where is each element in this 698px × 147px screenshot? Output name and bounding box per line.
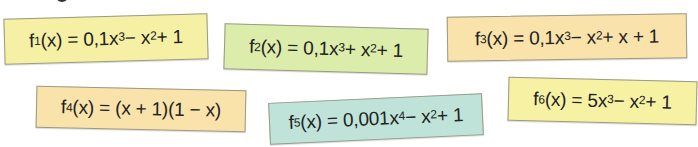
function-card-f1: f1(x) = 0,1x3 − x2 + 1 bbox=[3, 13, 208, 65]
equals-sign: = bbox=[287, 37, 299, 59]
expression: (x + 1)(1 − x) bbox=[115, 97, 221, 121]
term: − x bbox=[405, 106, 431, 129]
term: + x bbox=[345, 39, 371, 62]
term: − x bbox=[125, 27, 151, 50]
equals-sign: = bbox=[571, 89, 582, 111]
function-argument: (x) bbox=[260, 36, 282, 59]
equals-sign: = bbox=[67, 29, 79, 51]
cropped-glyph-fragment bbox=[56, 0, 68, 2]
term: 0,1x bbox=[303, 37, 339, 60]
term: + x + 1 bbox=[602, 25, 659, 48]
function-argument: (x) bbox=[40, 29, 62, 52]
function-card-f6: f6(x) = 5x3 − x2 + 1 bbox=[507, 77, 697, 126]
term: 0,1x bbox=[83, 28, 119, 51]
term: + 1 bbox=[376, 39, 403, 62]
term: − x bbox=[613, 90, 639, 113]
term: + 1 bbox=[645, 91, 672, 114]
function-card-f2: f2(x) = 0,1x3 + x2 + 1 bbox=[223, 23, 428, 75]
term: + 1 bbox=[156, 26, 183, 49]
function-argument: (x) bbox=[300, 110, 323, 133]
term: 0,001x bbox=[342, 107, 399, 132]
term: + 1 bbox=[436, 104, 463, 127]
term: − x bbox=[571, 26, 597, 48]
term: 5x bbox=[587, 90, 607, 112]
function-card-f4: f4(x) = (x + 1)(1 − x) bbox=[36, 86, 247, 132]
equals-sign: = bbox=[99, 97, 110, 119]
equals-sign: = bbox=[326, 110, 338, 132]
term: 0,1x bbox=[529, 27, 564, 49]
function-argument: (x) bbox=[72, 97, 94, 119]
function-argument: (x) bbox=[545, 89, 567, 112]
function-card-f3: f3(x) = 0,1x3 − x2 + x + 1 bbox=[447, 13, 688, 61]
function-card-f5: f5(x) = 0,001x4 − x2 + 1 bbox=[268, 93, 484, 145]
function-argument: (x) bbox=[486, 27, 508, 49]
equals-sign: = bbox=[513, 27, 524, 49]
